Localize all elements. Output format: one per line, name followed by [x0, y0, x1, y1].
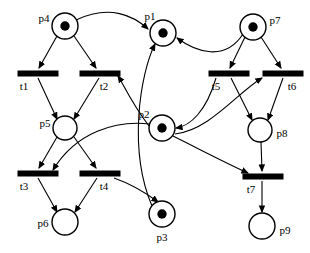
transition-bar-t2[interactable] [80, 71, 120, 76]
petri-net-canvas: t1t2t5t6t3t4t7 p4p1p7p5p2p8p6p3p9 [0, 0, 310, 253]
arc-p7-to-p1 [177, 34, 243, 52]
arc-t5-to-p8 [231, 78, 252, 120]
place-p2[interactable]: p2 [139, 108, 176, 141]
place-label-p7: p7 [270, 14, 282, 26]
arc-t3-to-p6 [38, 178, 57, 212]
transition-bar-t4[interactable] [80, 171, 120, 176]
arc-t4-to-p3 [114, 178, 158, 202]
place-label-p9: p9 [280, 224, 292, 236]
arc-p4-to-t1 [39, 36, 57, 68]
arc-p2-to-t7 [173, 136, 248, 173]
place-circle-p5[interactable] [53, 116, 77, 140]
arc-p4-to-p1 [76, 12, 148, 29]
place-label-p5: p5 [40, 117, 52, 129]
place-circle-p9[interactable] [249, 213, 275, 239]
transition-t3[interactable]: t3 [18, 171, 58, 192]
arc-p8-to-t7 [261, 142, 262, 171]
transition-label-t1: t1 [20, 80, 29, 92]
arc-t1-to-p5 [38, 78, 57, 119]
place-label-p1: p1 [145, 10, 156, 22]
token-p3 [157, 209, 166, 218]
place-p1[interactable]: p1 [145, 10, 177, 46]
transition-label-t5: t5 [212, 80, 221, 92]
transition-label-t6: t6 [288, 80, 297, 92]
arc-p5-to-t3 [39, 137, 57, 168]
place-circle-p6[interactable] [52, 209, 78, 235]
place-layer: p4p1p7p5p2p8p6p3p9 [38, 10, 292, 243]
token-p1 [158, 28, 167, 37]
arc-t4-to-p6 [75, 178, 97, 212]
transition-bar-t7[interactable] [243, 174, 283, 179]
transition-bar-t5[interactable] [209, 71, 249, 76]
place-p9[interactable]: p9 [249, 213, 291, 239]
place-p8[interactable]: p8 [248, 118, 288, 142]
transition-label-t4: t4 [100, 180, 109, 192]
transition-t6[interactable]: t6 [263, 71, 303, 92]
transition-t4[interactable]: t4 [80, 171, 120, 192]
transition-label-t7: t7 [247, 183, 256, 195]
place-label-p6: p6 [38, 217, 50, 229]
transition-label-t2: t2 [100, 80, 109, 92]
transition-bar-t1[interactable] [18, 71, 58, 76]
token-p4 [60, 21, 69, 30]
arc-t6-to-p8 [268, 78, 283, 120]
place-p4[interactable]: p4 [39, 12, 79, 39]
place-p6[interactable]: p6 [38, 209, 79, 235]
arc-p7-to-t6 [261, 37, 281, 68]
arc-p5-to-t4 [74, 137, 96, 168]
place-p3[interactable]: p3 [149, 201, 175, 243]
transition-bar-t6[interactable] [263, 71, 303, 76]
place-label-p8: p8 [277, 127, 289, 139]
place-p7[interactable]: p7 [240, 14, 281, 40]
arc-t5-to-p2 [176, 78, 216, 128]
place-circle-p8[interactable] [248, 118, 272, 142]
transition-bar-t3[interactable] [18, 171, 58, 176]
arc-p4-to-t2 [74, 36, 96, 68]
token-p2 [157, 123, 166, 132]
transition-t1[interactable]: t1 [18, 71, 58, 92]
place-label-p4: p4 [39, 12, 51, 24]
token-p7 [248, 22, 257, 31]
petri-net-diagram: t1t2t5t6t3t4t7 p4p1p7p5p2p8p6p3p9 [0, 0, 310, 253]
transition-t2[interactable]: t2 [80, 71, 120, 92]
place-label-p3: p3 [157, 231, 169, 243]
transition-label-t3: t3 [20, 180, 29, 192]
transition-t5[interactable]: t5 [209, 71, 249, 92]
transition-t7[interactable]: t7 [243, 174, 283, 195]
place-label-p2: p2 [139, 108, 150, 120]
place-p5[interactable]: p5 [40, 116, 78, 140]
arc-t2-to-p5 [74, 78, 99, 119]
